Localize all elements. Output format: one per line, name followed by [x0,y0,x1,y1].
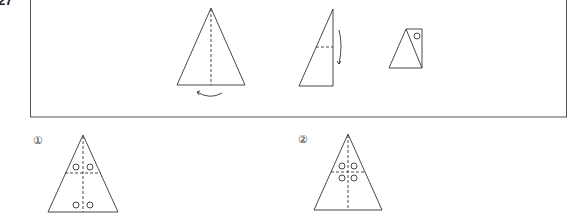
figures-canvas [0,0,569,223]
punched-hole [414,33,420,39]
option-1-label[interactable]: ① [33,134,43,147]
fold-step-3-figure [389,29,422,68]
option-2-label[interactable]: ② [298,133,308,146]
problem-box [31,0,567,117]
curved-arrow-icon [197,92,222,96]
option-1-figure[interactable] [48,135,118,212]
fold-step-2-figure [299,9,341,86]
curved-arrow-icon [339,30,341,64]
fold-step-1-figure [177,8,245,96]
option-2-figure[interactable] [314,134,382,210]
